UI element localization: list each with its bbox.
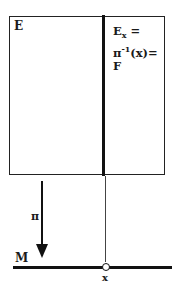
point-circle-icon: [102, 263, 110, 271]
preimage-argument: (x)=: [130, 46, 157, 60]
base-space-line: [13, 266, 172, 269]
base-space-label: M: [15, 251, 28, 265]
fiber-label: Ex = π-1(x)= F: [113, 25, 158, 74]
fiber-symbol: E: [113, 24, 122, 38]
projection-arrow-shaft: [41, 181, 43, 246]
projection-label: π: [31, 210, 39, 223]
fiber-line: [102, 15, 105, 176]
inverse-superscript: -1: [121, 44, 130, 54]
fiber-to-point-line: [105, 176, 106, 262]
point-label: x: [102, 272, 108, 283]
fiber-label-line3: F: [113, 60, 158, 74]
fiber-equals-1: =: [127, 24, 141, 38]
fiber-label-line1: Ex =: [113, 25, 158, 43]
arrow-down-icon: [36, 244, 48, 258]
total-space-label: E: [14, 19, 23, 33]
fiber-label-line2: π-1(x)=: [113, 43, 158, 61]
